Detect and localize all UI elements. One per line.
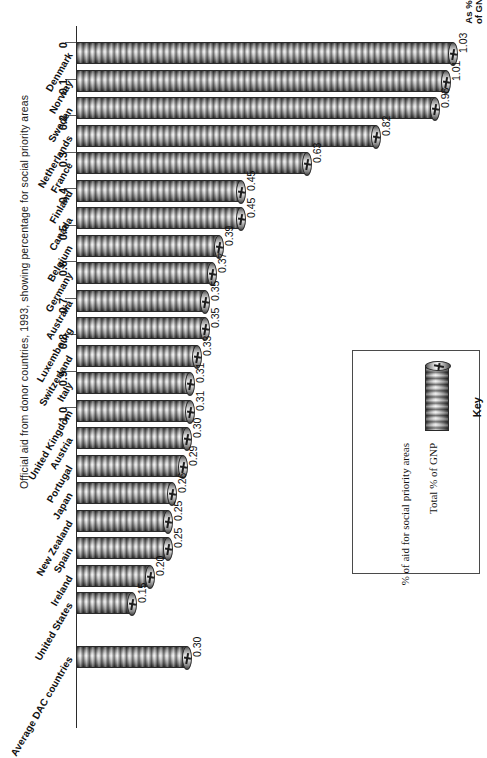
bar-value-label: 0.63	[311, 143, 323, 163]
bar-row[interactable]: 1.01	[77, 70, 458, 92]
bar-denmark[interactable]	[77, 42, 453, 64]
bar-average-dac-countries[interactable]	[77, 646, 187, 668]
axis-title: As % of GNP	[464, 0, 484, 24]
bar-italy[interactable]	[77, 372, 190, 394]
bar-row[interactable]: 0.39	[77, 235, 231, 257]
bar-row[interactable]: 0.20	[77, 565, 162, 587]
bar-france[interactable]	[77, 152, 307, 174]
bar-row[interactable]: 0.25	[77, 510, 180, 532]
key-entry-social-priority: % of aid for social priority areas	[399, 443, 411, 585]
bar-belgium[interactable]	[77, 235, 219, 257]
bar-switzerland[interactable]	[77, 345, 197, 367]
chart-key: Key Total % of GNP % of aid for social p…	[352, 350, 480, 574]
bar-row[interactable]: 0.35	[77, 317, 217, 339]
bar-value-label: 0.35	[209, 280, 221, 300]
bar-end-cap-icon	[182, 646, 192, 670]
bar-row[interactable]: 0.31	[77, 372, 202, 394]
bar-row[interactable]: 0.45	[77, 180, 253, 202]
bar-united-kingdom[interactable]	[77, 400, 190, 422]
axis-tick-label: 0	[57, 42, 69, 48]
bar-value-label: 0.33	[201, 335, 213, 355]
bar-luxembourg[interactable]	[77, 317, 205, 339]
bar-value-label: 0.30	[191, 636, 203, 656]
bar-united-states[interactable]	[77, 592, 132, 614]
bar-new-zealand[interactable]	[77, 510, 168, 532]
bar-value-label: 0.39	[223, 225, 235, 245]
bar-value-label: 1.03	[457, 33, 469, 53]
category-label-ireland: Ireland	[48, 573, 74, 608]
bar-austria[interactable]	[77, 427, 187, 449]
bar-row[interactable]: 0.33	[77, 345, 209, 367]
bar-value-label: 0.45	[245, 170, 257, 190]
bar-row[interactable]: 0.26	[77, 482, 184, 504]
chart-caption: Official aid from donor countries, 1993,…	[18, 9, 30, 489]
bar-australia[interactable]	[77, 290, 205, 312]
bar-germany[interactable]	[77, 262, 212, 284]
bar-row[interactable]: 0.30	[77, 646, 199, 668]
bar-row[interactable]: 0.30	[77, 427, 199, 449]
bar-value-label: 0.82	[380, 115, 392, 135]
bar-value-label: 0.37	[216, 253, 228, 273]
bar-value-label: 0.26	[176, 473, 188, 493]
bar-row[interactable]: 0.35	[77, 290, 217, 312]
bar-value-label: 0.35	[209, 308, 221, 328]
bar-value-label: 0.98	[439, 88, 451, 108]
bar-value-label: 0.20	[154, 555, 166, 575]
bar-canada[interactable]	[77, 207, 241, 229]
category-label-average-dac-countries: Average DAC countries	[9, 654, 75, 758]
bar-finland[interactable]	[77, 180, 241, 202]
bar-row[interactable]: 0.63	[77, 152, 319, 174]
bar-japan[interactable]	[77, 482, 172, 504]
bar-row[interactable]: 0.15	[77, 592, 144, 614]
bar-norway[interactable]	[77, 70, 446, 92]
category-label-united-states: United States	[33, 600, 75, 662]
bar-value-label: 0.30	[191, 418, 203, 438]
bar-value-label: 1.01	[450, 60, 462, 80]
bar-value-label: 0.31	[194, 390, 206, 410]
bar-row[interactable]: 1.03	[77, 42, 465, 64]
bar-value-label: 0.25	[172, 528, 184, 548]
bar-value-label: 0.45	[245, 198, 257, 218]
bar-row[interactable]: 0.37	[77, 262, 224, 284]
key-swatch-cylinder	[425, 365, 449, 431]
bar-portugal[interactable]	[77, 455, 183, 477]
bar-value-label: 0.15	[136, 583, 148, 603]
bar-netherlands[interactable]	[77, 125, 376, 147]
bar-value-label: 0.25	[172, 500, 184, 520]
bar-row[interactable]: 0.82	[77, 125, 388, 147]
key-swatch-cap	[425, 361, 451, 371]
bar-value-label: 0.31	[194, 363, 206, 383]
bar-value-label: 0.29	[187, 445, 199, 465]
key-entry-total-gnp: Total % of GNP	[427, 443, 439, 514]
bar-row[interactable]: 0.31	[77, 400, 202, 422]
axis-title-line2: of GNP	[473, 0, 484, 24]
key-title: Key	[471, 397, 483, 417]
